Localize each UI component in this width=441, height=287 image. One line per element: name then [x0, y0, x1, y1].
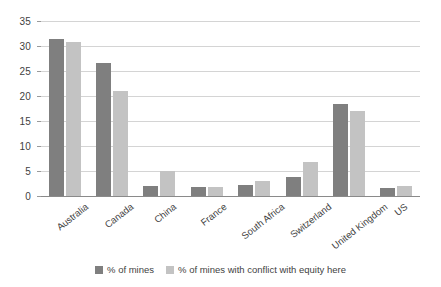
x-axis-tick: US — [373, 197, 420, 257]
y-axis-tick-label: 20 — [19, 91, 31, 102]
y-axis-tick-label: 30 — [19, 41, 31, 52]
y-axis-tick-label: 35 — [19, 16, 31, 27]
y-axis-tick-mark — [37, 46, 41, 47]
x-axis: AustraliaCanadaChinaFranceSouth AfricaSw… — [41, 197, 420, 257]
y-axis-tick-mark — [37, 196, 41, 197]
bar — [191, 187, 206, 197]
x-axis-tick: Canada — [88, 197, 135, 257]
legend-label: % of mines with conflict with equity her… — [178, 264, 346, 275]
bar-group — [325, 21, 372, 196]
bar — [333, 104, 348, 196]
bar — [255, 181, 270, 197]
bar — [350, 111, 365, 196]
y-axis-tick-mark — [37, 121, 41, 122]
bar-group — [136, 21, 183, 196]
bar-chart: 05101520253035 AustraliaCanadaChinaFranc… — [0, 0, 441, 287]
bar-group — [183, 21, 230, 196]
x-axis-tick: France — [183, 197, 230, 257]
bar-groups — [41, 21, 420, 196]
bar-group — [231, 21, 278, 196]
y-axis-tick-mark — [37, 71, 41, 72]
bar — [286, 177, 301, 196]
y-axis-tick-mark — [37, 96, 41, 97]
bar — [238, 185, 253, 196]
x-axis-tick: United Kingdom — [325, 197, 372, 257]
bar — [143, 186, 158, 196]
bar-group — [41, 21, 88, 196]
x-axis-tick-label: US — [393, 201, 410, 218]
y-axis-tick-label: 25 — [19, 66, 31, 77]
bar — [160, 171, 175, 196]
x-axis-tick-label: Australia — [54, 201, 90, 232]
x-axis-tick: China — [136, 197, 183, 257]
legend-swatch-icon — [95, 266, 103, 274]
y-axis-tick-mark — [37, 146, 41, 147]
x-axis-tick-label: France — [198, 201, 228, 228]
bar — [113, 91, 128, 196]
legend-item[interactable]: % of mines — [95, 264, 154, 275]
bar — [380, 188, 395, 197]
x-axis-tick: Australia — [41, 197, 88, 257]
x-axis-tick-label: China — [152, 201, 178, 225]
chart-legend: % of mines% of mines with conflict with … — [0, 264, 441, 275]
y-axis-tick-label: 0 — [25, 191, 31, 202]
bar — [96, 63, 111, 196]
y-axis-tick-mark — [37, 21, 41, 22]
bar — [208, 187, 223, 196]
y-axis: 05101520253035 — [0, 21, 36, 196]
legend-label: % of mines — [107, 264, 154, 275]
y-axis-tick-label: 10 — [19, 141, 31, 152]
bar-group — [373, 21, 420, 196]
bar — [397, 186, 412, 197]
legend-swatch-icon — [166, 266, 174, 274]
y-axis-tick-label: 5 — [25, 166, 31, 177]
legend-item[interactable]: % of mines with conflict with equity her… — [166, 264, 346, 275]
bar — [66, 42, 81, 196]
bar-group — [278, 21, 325, 196]
x-axis-tick-label: Canada — [102, 201, 135, 230]
y-axis-tick-label: 15 — [19, 116, 31, 127]
x-axis-tick: Switzerland — [278, 197, 325, 257]
bar — [49, 39, 64, 197]
bar — [303, 162, 318, 197]
y-axis-tick-mark — [37, 171, 41, 172]
bar-group — [88, 21, 135, 196]
x-axis-tick: South Africa — [231, 197, 278, 257]
